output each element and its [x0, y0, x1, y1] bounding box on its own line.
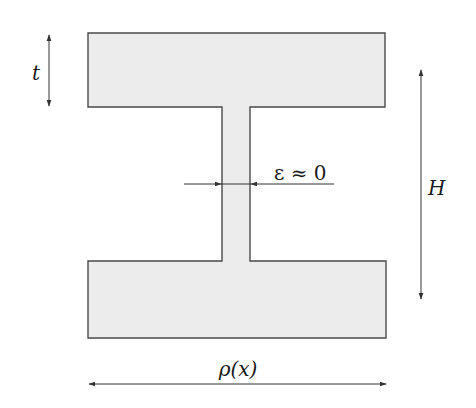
flange-thickness-label: t: [32, 61, 41, 85]
i-beam-shape: [88, 33, 386, 338]
i-beam-diagram: t H ε ≈ 0 ρ(x): [0, 0, 476, 408]
width-label: ρ(x): [218, 357, 258, 381]
height-label: H: [427, 176, 446, 200]
web-thickness-label: ε ≈ 0: [274, 161, 327, 185]
